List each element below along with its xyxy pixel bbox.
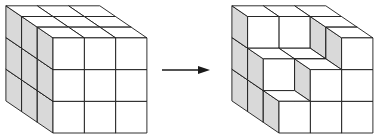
cube-front-face bbox=[279, 17, 310, 49]
cube-front-face bbox=[116, 38, 147, 70]
cube-front-face bbox=[84, 101, 115, 133]
cube-front-face bbox=[342, 70, 373, 102]
cube-front-face bbox=[116, 101, 147, 133]
cube-front-face bbox=[84, 70, 115, 102]
full-cube bbox=[6, 6, 147, 133]
unit-cube bbox=[37, 27, 84, 69]
transform-arrow-icon bbox=[162, 66, 210, 74]
cube-front-face bbox=[342, 101, 373, 133]
cube-front-face bbox=[342, 38, 373, 70]
diagram-stage bbox=[0, 0, 376, 137]
cube-diagram bbox=[0, 0, 376, 137]
cube-front-face bbox=[84, 38, 115, 70]
cube-front-face bbox=[53, 70, 84, 102]
unit-cube bbox=[263, 91, 310, 133]
cube-front-face bbox=[53, 101, 84, 133]
cube-front-face bbox=[279, 101, 310, 133]
cube-front-face bbox=[53, 38, 84, 70]
unit-cube bbox=[232, 6, 279, 48]
cube-front-face bbox=[310, 101, 341, 133]
cube-front-face bbox=[116, 70, 147, 102]
arrow-head bbox=[198, 66, 210, 74]
cube-front-face bbox=[248, 17, 279, 49]
staircase-cube bbox=[232, 6, 373, 133]
cube-front-face bbox=[263, 59, 294, 91]
cube-front-face bbox=[310, 70, 341, 102]
unit-cube bbox=[248, 48, 295, 90]
